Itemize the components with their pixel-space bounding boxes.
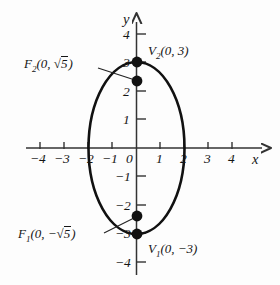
radical-sign-f2: √: [54, 56, 61, 71]
y-tick-label-2: 2: [123, 85, 130, 99]
y-tick-label--3: −3: [115, 227, 131, 241]
label-v1-coords: (0, −3): [160, 241, 197, 256]
x-tick-label--4: −4: [30, 152, 46, 166]
label-v2: V2(0, 3): [148, 44, 189, 61]
x-axis-label: x: [252, 152, 258, 167]
x-tick-label-4: 4: [228, 152, 235, 166]
y-tick-label-4: 4: [123, 28, 130, 42]
point-v1: [132, 229, 143, 240]
radical-sign-f1: √: [57, 226, 64, 241]
y-tick-label--4: −4: [115, 256, 131, 270]
label-f2-name: F: [24, 56, 32, 71]
x-tick-label-2: 2: [180, 152, 187, 166]
x-tick-label--3: −3: [54, 152, 70, 166]
label-v1: V1(0, −3): [148, 242, 197, 259]
x-tick-label--2: −2: [78, 152, 94, 166]
label-v1-name: V: [148, 241, 156, 256]
point-f1: [132, 211, 143, 222]
ellipse-figure: −4 −3 −2 −1 0 1 2 3 4 4 3 2 1 −1 −2 −3 −…: [0, 0, 280, 285]
point-f2: [132, 76, 143, 87]
label-f1: F1(0, −√5): [18, 226, 76, 244]
y-tick-label-3: 3: [123, 56, 130, 70]
y-tick-label-1: 1: [123, 113, 130, 127]
label-f2: F2(0, √5): [24, 56, 73, 74]
label-f2-suffix: ): [68, 56, 72, 71]
y-tick-label--2: −2: [115, 199, 131, 213]
label-f1-name: F: [18, 226, 26, 241]
label-v2-name: V: [148, 43, 156, 58]
x-tick-label-0: 0: [126, 152, 133, 166]
x-tick-label-1: 1: [156, 152, 163, 166]
x-tick-label--1: −1: [102, 152, 118, 166]
y-axis-label: y: [123, 12, 129, 27]
y-tick-label--1: −1: [115, 170, 131, 184]
label-f1-suffix: ): [71, 226, 75, 241]
label-f2-prefix: (0,: [36, 56, 53, 71]
label-f1-prefix: (0, −: [30, 226, 56, 241]
point-v2: [132, 57, 143, 68]
x-tick-label-3: 3: [204, 152, 211, 166]
label-v2-coords: (0, 3): [160, 43, 188, 58]
